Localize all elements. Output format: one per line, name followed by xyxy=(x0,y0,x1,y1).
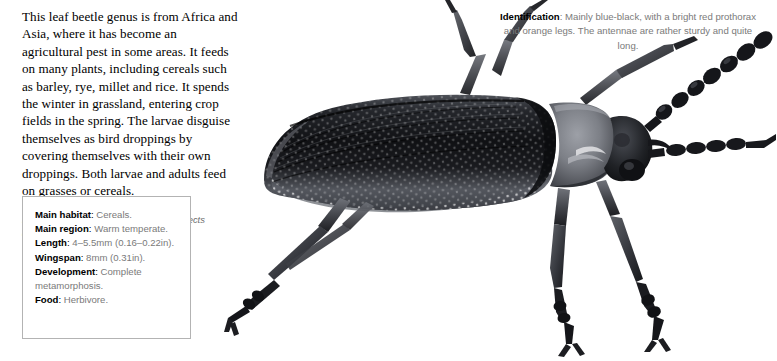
fact-label-wingspan: Wingspan xyxy=(35,252,81,263)
fact-label-food: Food xyxy=(35,294,58,305)
left-text-column: This leaf beetle genus is from Africa an… xyxy=(22,8,238,240)
fact-label-length: Length xyxy=(35,237,67,248)
fact-label-main-region: Main region xyxy=(35,223,89,234)
fact-label-main-habitat: Main habitat xyxy=(35,209,91,220)
identification-label: Identification xyxy=(500,11,560,22)
fact-separator: : xyxy=(91,209,94,220)
fact-row: Development: Complete metamorphosis. xyxy=(35,265,185,293)
fact-row: Length: 4–5.5mm (0.16–0.22in). xyxy=(35,236,185,250)
fact-value-main-region: Warm temperate. xyxy=(94,223,168,234)
fact-separator: : xyxy=(81,252,84,263)
identification-separator: : xyxy=(560,11,563,22)
fact-value-wingspan: 8mm (0.31in). xyxy=(86,252,145,263)
fact-value-food: Herbivore. xyxy=(64,294,108,305)
fact-row: Main region: Warm temperate. xyxy=(35,222,185,236)
fact-separator: : xyxy=(67,237,70,248)
fact-value-main-habitat: Cereals. xyxy=(96,209,132,220)
fact-separator: : xyxy=(58,294,61,305)
fact-value-length: 4–5.5mm (0.16–0.22in). xyxy=(72,237,174,248)
fact-box: Main habitat: Cereals. Main region: Warm… xyxy=(22,196,191,339)
beetle-photograph xyxy=(224,0,777,361)
fact-row: Main habitat: Cereals. xyxy=(35,208,185,222)
identification-block: Identification: Mainly blue-black, with … xyxy=(498,10,758,53)
field-guide-page: This leaf beetle genus is from Africa an… xyxy=(0,0,777,361)
fact-separator: : xyxy=(95,266,98,277)
fact-separator: : xyxy=(89,223,92,234)
fact-row: Wingspan: 8mm (0.31in). xyxy=(35,251,185,265)
fact-row: Food: Herbivore. xyxy=(35,293,185,307)
intro-paragraph: This leaf beetle genus is from Africa an… xyxy=(22,8,238,199)
fact-label-development: Development xyxy=(35,266,95,277)
fact-list: Main habitat: Cereals. Main region: Warm… xyxy=(23,197,190,307)
